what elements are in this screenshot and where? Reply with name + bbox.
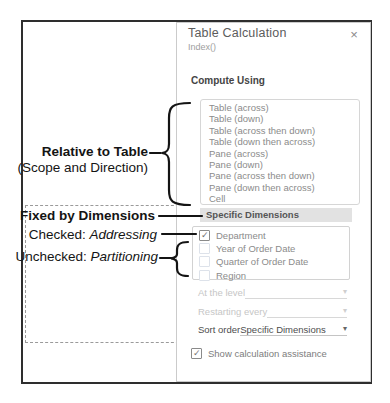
dimension-label: Year of Order Date: [216, 243, 295, 254]
annotation-fixed-by-dimensions: Fixed by Dimensions: [20, 208, 155, 223]
annotation-relative-to-table: Relative to Table (Scope and Direction): [17, 144, 148, 176]
caret-down-icon: ▾: [343, 325, 347, 333]
annotation-relative-subtitle: (Scope and Direction): [17, 160, 148, 175]
checkbox-department[interactable]: ✓: [199, 230, 210, 241]
scope-option-table-down-then-across[interactable]: Table (down then across): [201, 136, 359, 147]
screenshot-root: Table Calculation Index() × Compute Usin…: [0, 0, 390, 403]
close-icon[interactable]: ×: [346, 27, 362, 43]
dialog-subtitle: Index(): [188, 42, 216, 52]
scope-option-pane-down[interactable]: Pane (down): [201, 159, 359, 170]
scope-option-table-across[interactable]: Table (across): [201, 102, 359, 113]
scope-option-pane-across-then-down[interactable]: Pane (across then down): [201, 170, 359, 181]
dimensions-listbox: ✓ Department Year of Order Date Quarter …: [192, 226, 350, 280]
compute-using-listbox: Table (across) Table (down) Table (acros…: [200, 99, 360, 205]
scope-option-pane-across[interactable]: Pane (across): [201, 148, 359, 159]
caret-down-icon: ▾: [343, 307, 347, 315]
restarting-every-dropdown[interactable]: ▾: [267, 305, 347, 318]
show-assistance-label: Show calculation assistance: [208, 348, 327, 359]
dimension-label: Department: [216, 230, 266, 241]
dimension-label: Region: [216, 270, 246, 281]
checkbox-quarter-of-order-date[interactable]: [199, 256, 210, 267]
dialog-title: Table Calculation: [188, 26, 287, 40]
annotation-relative-title: Relative to Table: [42, 144, 148, 159]
show-assistance-row: ✓ Show calculation assistance: [191, 348, 327, 359]
caret-down-icon: ▾: [343, 288, 347, 296]
scope-option-table-down[interactable]: Table (down): [201, 113, 359, 124]
sort-order-row: Sort order Specific Dimensions ▾: [198, 322, 347, 337]
scope-option-pane-down-then-across[interactable]: Pane (down then across): [201, 182, 359, 193]
annotation-unchecked-term: Partitioning: [90, 249, 158, 264]
checkbox-show-assistance[interactable]: ✓: [191, 348, 202, 359]
annotation-unchecked-partitioning: Unchecked: Partitioning: [15, 249, 158, 264]
restarting-every-label: Restarting every: [198, 306, 267, 317]
checkbox-year-of-order-date[interactable]: [199, 243, 210, 254]
dimension-row-quarter-of-order-date[interactable]: Quarter of Order Date: [199, 255, 349, 268]
compute-using-heading: Compute Using: [191, 75, 265, 86]
sort-order-dropdown[interactable]: Specific Dimensions ▾: [240, 323, 347, 336]
dimension-row-region[interactable]: Region: [199, 269, 349, 282]
annotation-checked-addressing: Checked: Addressing: [29, 227, 157, 242]
restarting-every-row: Restarting every ▾: [198, 304, 347, 319]
at-the-level-dropdown[interactable]: ▾: [245, 286, 347, 299]
at-the-level-label: At the level: [198, 287, 245, 298]
sort-order-label: Sort order: [198, 324, 240, 335]
dimension-label: Quarter of Order Date: [216, 256, 308, 267]
dimension-row-year-of-order-date[interactable]: Year of Order Date: [199, 242, 349, 255]
annotation-checked-term: Addressing: [89, 227, 157, 242]
annotation-unchecked-prefix: Unchecked:: [15, 249, 90, 264]
scope-option-table-across-then-down[interactable]: Table (across then down): [201, 125, 359, 136]
checkbox-region[interactable]: [199, 270, 210, 281]
dimension-row-department[interactable]: ✓ Department: [199, 229, 349, 242]
annotation-checked-prefix: Checked:: [29, 227, 90, 242]
at-the-level-row: At the level ▾: [198, 285, 347, 300]
sort-order-value: Specific Dimensions: [240, 324, 326, 335]
specific-dimensions-option[interactable]: Specific Dimensions: [200, 208, 352, 222]
scope-option-cell[interactable]: Cell: [201, 193, 359, 204]
